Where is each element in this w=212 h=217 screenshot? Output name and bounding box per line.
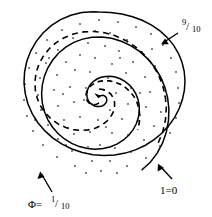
phi-label: Φ= 1 / 10 — [28, 194, 70, 211]
phi-label-slash: / — [55, 197, 59, 209]
nine-tenths-denominator: 10 — [192, 24, 201, 34]
nine-tenths-slash: / — [186, 20, 190, 32]
stipple-dots — [23, 19, 180, 174]
dashed-spiral-path — [35, 32, 166, 144]
nine-tenths-label: 9 / 10 — [182, 17, 201, 34]
spiral-svg: Φ= 1 / 10 9 / 10 1=0 — [0, 0, 212, 217]
l-equals-zero-label: 1=0 — [160, 184, 178, 196]
spiral-figure: Φ= 1 / 10 9 / 10 1=0 — [0, 0, 212, 217]
l-equals-zero-arrowhead — [158, 164, 164, 172]
phi-label-text: Φ= — [28, 198, 42, 210]
l-equals-zero-text: 1=0 — [160, 184, 178, 196]
phi-label-denominator: 10 — [61, 201, 70, 211]
solid-spiral-path — [42, 37, 169, 170]
